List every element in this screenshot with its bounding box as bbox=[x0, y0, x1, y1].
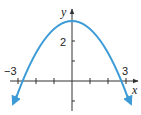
y-axis-label: y bbox=[60, 5, 67, 19]
y-tick-label-2: 2 bbox=[60, 36, 66, 48]
x-tick-label-3: 3 bbox=[122, 65, 128, 77]
parabola-graph: −3 3 2 y x bbox=[0, 0, 141, 115]
x-axis-label: x bbox=[131, 83, 138, 97]
x-tick-label-neg3: −3 bbox=[4, 65, 17, 77]
